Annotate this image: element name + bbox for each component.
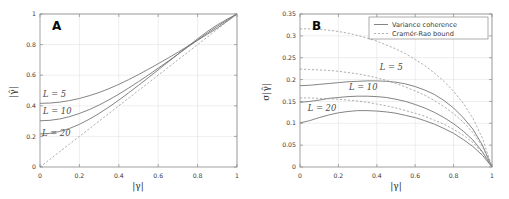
y-tick-label: 0.3	[286, 32, 296, 39]
panel-b-x-axis-label: |γ|	[390, 181, 401, 192]
curve-label-1: L = 5	[379, 62, 403, 72]
data-curve	[40, 14, 237, 167]
data-curve	[40, 14, 237, 121]
panel-a-plot: 00.20.40.60.81 00.20.40.60.81 L = 5L = 1…	[0, 0, 254, 199]
panel-b-curves	[300, 29, 492, 167]
y-tick-label: 0	[32, 163, 36, 170]
curve-label-1: L = 5	[42, 89, 66, 99]
x-tick-label: 0.8	[193, 172, 203, 179]
panel-a-letter: A	[52, 19, 62, 33]
y-tick-label: 0.25	[282, 54, 296, 61]
y-tick-label: 0.05	[282, 141, 296, 148]
x-tick-label: 0.2	[74, 172, 84, 179]
x-tick-label: 1	[235, 172, 239, 179]
panel-a-curve-labels: L = 5L = 10L = 20	[41, 89, 72, 138]
x-tick-label: 0.6	[410, 172, 420, 179]
y-tick-label: 1	[32, 10, 36, 17]
x-tick-label: 0.8	[449, 172, 459, 179]
x-tick-label: 0	[38, 172, 42, 179]
panel-a-y-axis-label: |γ̂|	[8, 86, 19, 97]
y-tick-label: 0.35	[282, 10, 296, 17]
x-tick-label: 0.6	[153, 172, 163, 179]
legend-label-cramer-rao-bound: Cramér-Rao bound	[392, 30, 454, 38]
panel-a: 00.20.40.60.81 00.20.40.60.81 L = 5L = 1…	[0, 0, 254, 199]
data-curve	[300, 111, 492, 167]
panel-b-curve-labels: L = 5L = 10L = 20	[307, 62, 403, 113]
x-tick-label: 0.2	[333, 172, 343, 179]
y-tick-label: 0	[292, 163, 296, 170]
legend-label-variance-coherence: Variance coherence	[392, 21, 457, 29]
y-tick-label: 0.15	[282, 98, 296, 105]
data-curve	[300, 29, 492, 167]
y-tick-label: 0.4	[26, 102, 36, 109]
figure-container: 00.20.40.60.81 00.20.40.60.81 L = 5L = 1…	[0, 0, 509, 199]
x-tick-label: 0.4	[372, 172, 382, 179]
curve-label-2: L = 10	[348, 82, 378, 92]
y-tick-label: 0.8	[26, 41, 36, 48]
data-curve	[300, 81, 492, 167]
curve-label-3: L = 20	[307, 103, 337, 113]
y-tick-label: 0.6	[26, 71, 36, 78]
panel-b-letter: B	[312, 19, 321, 33]
panel-b-y-tick-labels: 00.050.10.150.20.250.30.35	[282, 10, 296, 170]
panel-b-y-axis-label: σ|γ̂|	[261, 83, 272, 101]
curve-label-2: L = 10	[42, 106, 72, 116]
panel-b: 00.20.40.60.81 00.050.10.150.20.250.30.3…	[255, 0, 509, 199]
panel-b-legend: Variance coherence Cramér-Rao bound	[369, 17, 488, 39]
panel-a-y-tick-labels: 00.20.40.60.81	[26, 10, 36, 170]
panel-a-curves	[40, 14, 237, 167]
x-tick-label: 0	[298, 172, 302, 179]
y-tick-label: 0.1	[286, 119, 296, 126]
x-tick-label: 1	[490, 172, 494, 179]
y-tick-label: 0.2	[26, 133, 36, 140]
curve-label-3: L = 20	[41, 128, 71, 138]
panel-a-x-tick-labels: 00.20.40.60.81	[38, 172, 239, 179]
panel-a-x-axis-label: |γ|	[132, 181, 143, 192]
data-curve	[40, 14, 237, 103]
panel-b-x-tick-labels: 00.20.40.60.81	[298, 172, 494, 179]
panel-b-plot: 00.20.40.60.81 00.050.10.150.20.250.30.3…	[255, 0, 509, 199]
y-tick-label: 0.2	[286, 76, 296, 83]
x-tick-label: 0.4	[114, 172, 124, 179]
